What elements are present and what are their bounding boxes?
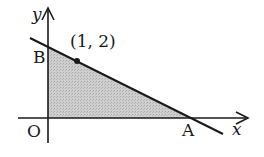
point-1-2 — [74, 58, 80, 64]
point-a-label: A — [182, 122, 194, 139]
x-axis-label: x — [232, 121, 242, 138]
origin-label: O — [27, 123, 41, 140]
point-b-label: B — [33, 49, 46, 66]
y-axis-label: y — [32, 6, 42, 23]
point-coordinate-label: (1, 2) — [70, 33, 116, 50]
